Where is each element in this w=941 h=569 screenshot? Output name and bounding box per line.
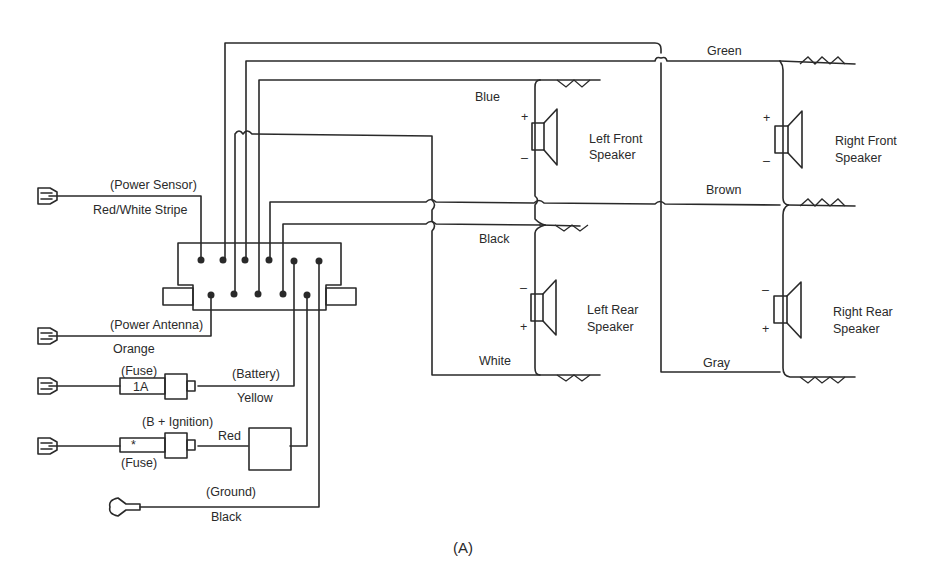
gray-label: Gray xyxy=(703,356,731,370)
right-front-speaker-icon xyxy=(775,111,802,168)
fuse-rating-ignition: * xyxy=(131,438,136,452)
ignition-module-box xyxy=(249,428,291,470)
fuse-label-ignition: (Fuse) xyxy=(121,456,157,470)
left-front-label-2: Speaker xyxy=(589,148,636,162)
ignition-label: (B + Ignition) xyxy=(142,415,213,429)
left-rear-minus: – xyxy=(520,281,527,295)
right-front-plus: + xyxy=(763,111,770,125)
white-label: White xyxy=(479,354,511,368)
figure-label: (A) xyxy=(453,539,473,556)
wire-green xyxy=(225,43,780,372)
brown-label: Brown xyxy=(706,183,741,197)
left-front-plus: + xyxy=(521,110,528,124)
right-rear-minus: – xyxy=(762,283,769,297)
black-speaker-label: Black xyxy=(479,232,510,246)
right-front-label-1: Right Front xyxy=(835,134,897,148)
left-front-minus: – xyxy=(521,151,528,165)
blue-label: Blue xyxy=(475,90,500,104)
green-label: Green xyxy=(707,44,742,58)
black-ground-label: Black xyxy=(211,510,242,524)
battery-label: (Battery) xyxy=(232,367,280,381)
power-antenna-label: (Power Antenna) xyxy=(110,318,203,332)
wire-ground xyxy=(140,261,319,507)
left-front-label-1: Left Front xyxy=(589,132,643,146)
ground-label: (Ground) xyxy=(206,485,256,499)
ground-lug-icon xyxy=(110,498,140,516)
left-rear-label-1: Left Rear xyxy=(587,303,638,317)
yellow-label: Yellow xyxy=(237,391,274,405)
fuse-rating-1a: 1A xyxy=(133,380,149,394)
right-front-label-2: Speaker xyxy=(835,151,882,165)
power-sensor-label: (Power Sensor) xyxy=(110,178,197,192)
red-label: Red xyxy=(218,429,241,443)
fuse-label-battery: (Fuse) xyxy=(121,364,157,378)
orange-label: Orange xyxy=(113,342,155,356)
right-rear-label-2: Speaker xyxy=(833,322,880,336)
left-rear-label-2: Speaker xyxy=(587,320,634,334)
right-front-minus: – xyxy=(763,154,770,168)
left-rear-plus: + xyxy=(520,320,527,334)
car-stereo-wiring-diagram: (Power Sensor) Red/White Stripe (Power A… xyxy=(0,0,941,569)
red-white-stripe-label: Red/White Stripe xyxy=(93,203,188,217)
right-rear-label-1: Right Rear xyxy=(833,305,893,319)
right-rear-speaker-icon xyxy=(774,282,801,338)
right-rear-plus: + xyxy=(762,322,769,336)
